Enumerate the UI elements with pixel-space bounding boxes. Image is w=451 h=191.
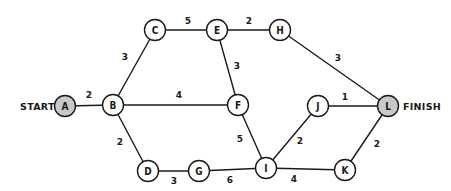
start-label: START xyxy=(20,101,55,112)
edge-weight-h-l: 3 xyxy=(335,53,341,63)
node-label: D xyxy=(144,166,151,177)
node-label: A xyxy=(62,101,69,112)
node-label: L xyxy=(385,101,391,112)
edge-weight-g-i: 6 xyxy=(227,175,233,185)
edge-weight-d-g: 3 xyxy=(171,176,177,186)
finish-label: FINISH xyxy=(403,101,441,112)
node-f: F xyxy=(228,95,249,116)
edge-weight-j-l: 1 xyxy=(342,92,348,102)
edge-k-l xyxy=(345,106,388,170)
node-l: L xyxy=(378,96,399,117)
node-b: B xyxy=(103,95,124,116)
node-label: K xyxy=(342,165,350,176)
node-label: B xyxy=(110,100,117,111)
node-i: I xyxy=(256,158,277,179)
edge-weight-k-l: 2 xyxy=(374,139,380,149)
node-c: C xyxy=(145,20,166,41)
node-label: H xyxy=(276,25,284,36)
node-label: G xyxy=(195,166,202,177)
edge-weight-b-c: 3 xyxy=(122,52,128,62)
node-label: E xyxy=(214,25,220,36)
edge-weight-a-b: 2 xyxy=(86,90,92,100)
node-j: J xyxy=(308,96,329,117)
node-g: G xyxy=(189,161,210,182)
node-label: F xyxy=(235,100,241,111)
edge-i-k xyxy=(266,168,345,170)
edge-h-l xyxy=(280,30,388,106)
node-d: D xyxy=(138,161,159,182)
node-h: H xyxy=(270,20,291,41)
node-label: J xyxy=(315,101,319,112)
edge-weight-b-d: 2 xyxy=(117,137,123,147)
edge-b-c xyxy=(113,30,155,105)
node-label: I xyxy=(264,163,267,174)
edge-weight-i-j: 2 xyxy=(297,136,303,146)
edge-weight-e-h: 2 xyxy=(246,16,252,26)
edge-weight-f-i: 5 xyxy=(237,134,243,144)
edge-weight-i-k: 4 xyxy=(291,174,297,184)
edge-i-j xyxy=(266,106,318,168)
node-k: K xyxy=(335,160,356,181)
network-diagram: 235234323652142 ABCEHFJLDGIK START FINIS… xyxy=(0,0,451,191)
node-label: C xyxy=(152,25,159,36)
edge-weight-b-f: 4 xyxy=(176,90,182,100)
edge-weight-c-e: 5 xyxy=(185,16,191,26)
edge-weight-e-f: 3 xyxy=(234,61,240,71)
node-e: E xyxy=(207,20,228,41)
node-a: A xyxy=(55,96,76,117)
